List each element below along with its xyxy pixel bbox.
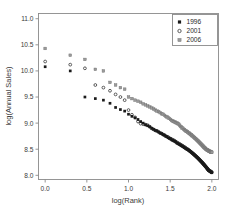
legend-label-2006: 2006 (187, 36, 202, 43)
y-tick-label: 11.0 (21, 15, 34, 22)
series-1996 (44, 65, 213, 174)
y-tick-label: 9.0 (24, 120, 33, 127)
y-axis-ticks: 8.08.59.09.510.010.511.0 (21, 15, 39, 179)
y-tick-label: 10.5 (21, 41, 34, 48)
series-2006 (44, 47, 213, 154)
x-tick-label: 1.5 (166, 185, 175, 192)
scatter-chart: 8.08.59.09.510.010.511.0 0.00.51.01.52.0… (0, 0, 229, 214)
y-tick-label: 9.5 (24, 93, 33, 100)
data-series-layer (44, 47, 213, 174)
x-tick-label: 2.0 (207, 185, 216, 192)
y-tick-label: 8.0 (24, 172, 33, 179)
y-tick-label: 8.5 (24, 146, 33, 153)
legend-label-2001: 2001 (187, 27, 202, 34)
x-tick-label: 1.0 (124, 185, 133, 192)
x-tick-label: 0.0 (41, 185, 50, 192)
x-axis-ticks: 0.00.51.01.52.0 (41, 180, 217, 192)
y-tick-label: 10.0 (21, 67, 34, 74)
series-2001 (44, 60, 213, 173)
chart-canvas: 8.08.59.09.510.010.511.0 0.00.51.01.52.0… (0, 0, 229, 214)
x-axis-label: log(Rank) (112, 196, 145, 205)
chart-legend: 199620012006 (173, 15, 218, 46)
y-axis-label: log(Annual Sales) (4, 66, 13, 126)
x-tick-label: 0.5 (82, 185, 91, 192)
legend-label-1996: 1996 (187, 18, 202, 25)
